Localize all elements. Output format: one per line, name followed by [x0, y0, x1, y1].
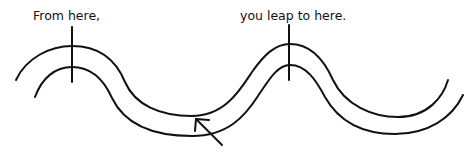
outer-wave-line [16, 44, 448, 117]
wavy-path-drawing [0, 0, 475, 155]
leap-diagram: From here, you leap to here. [0, 0, 475, 155]
